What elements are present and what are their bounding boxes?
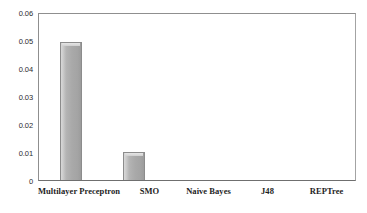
bar-smo bbox=[123, 152, 145, 180]
y-tick-label: 0.02 bbox=[19, 121, 33, 130]
y-tick-label: 0.01 bbox=[19, 149, 33, 158]
x-tick-label-naive-bayes: Naive Bayes bbox=[186, 183, 231, 197]
bar-slot bbox=[102, 14, 165, 180]
bar-slot bbox=[39, 14, 102, 180]
bar-slot bbox=[165, 14, 228, 180]
x-axis: Multilayer Preceptron SMO Naive Bayes J4… bbox=[38, 183, 356, 205]
y-tick-label: 0.03 bbox=[19, 93, 33, 102]
bar-chart: 0.06 0.05 0.04 0.03 0.02 0.01 0 bbox=[0, 0, 367, 213]
bar-multilayer-preceptron bbox=[60, 42, 82, 180]
bars-layer bbox=[39, 14, 355, 180]
x-tick-slot: Naive Bayes bbox=[179, 183, 238, 205]
y-axis: 0.06 0.05 0.04 0.03 0.02 0.01 0 bbox=[0, 0, 36, 213]
x-tick-slot: Multilayer Preceptron bbox=[38, 183, 120, 205]
plot-area bbox=[38, 13, 356, 181]
x-tick-slot: SMO bbox=[120, 183, 179, 205]
bar-slot bbox=[229, 14, 292, 180]
y-tick-label: 0.04 bbox=[19, 65, 33, 74]
x-tick-label-multilayer-preceptron: Multilayer Preceptron bbox=[38, 183, 120, 197]
bar-slot bbox=[292, 14, 355, 180]
y-tick-label: 0.06 bbox=[19, 9, 33, 18]
x-tick-slot: J48 bbox=[238, 183, 297, 205]
y-tick-label: 0 bbox=[29, 177, 33, 186]
x-tick-label-reptree: REPTree bbox=[310, 183, 344, 197]
x-tick-label-smo: SMO bbox=[140, 183, 160, 197]
x-tick-slot: REPTree bbox=[297, 183, 356, 205]
y-tick-label: 0.05 bbox=[19, 37, 33, 46]
x-tick-label-j48: J48 bbox=[261, 183, 274, 197]
